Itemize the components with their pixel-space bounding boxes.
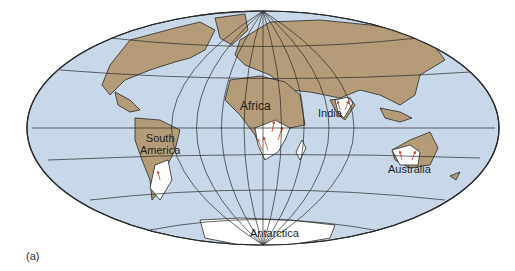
label-antarctica: Antarctica: [250, 228, 299, 240]
label-australia: Australia: [388, 164, 431, 176]
label-india: India: [318, 108, 342, 120]
label-south-america: South America: [140, 133, 180, 156]
label-south-america-line2: America: [140, 145, 180, 157]
label-africa: Africa: [240, 100, 271, 113]
label-south-america-line1: South: [140, 133, 180, 145]
figure-caption: (a): [26, 250, 39, 262]
